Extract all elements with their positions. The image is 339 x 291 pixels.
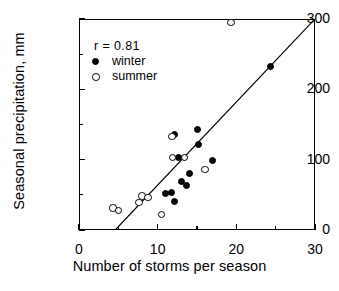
data-point-summer xyxy=(168,133,176,141)
open-circle-icon xyxy=(92,73,100,81)
correlation-annotation: r = 0.81 xyxy=(94,39,140,53)
legend-label-winter: winter xyxy=(112,54,145,68)
filled-circle-icon xyxy=(92,58,99,65)
data-point-winter xyxy=(195,141,202,148)
data-point-winter xyxy=(186,170,193,177)
x-axis-label: Number of storms per season xyxy=(0,258,339,274)
data-point-winter xyxy=(171,198,178,205)
y-axis-label: Seasonal precipitation, mm xyxy=(11,6,27,236)
data-point-summer xyxy=(201,166,209,174)
legend-label-summer: summer xyxy=(112,69,157,83)
x-tick-label: 10 xyxy=(138,241,178,257)
scatter-plot-figure: Seasonal precipitation, mm Number of sto… xyxy=(0,0,339,291)
x-tick-label: 0 xyxy=(59,241,99,257)
x-tick-label: 30 xyxy=(295,241,335,257)
data-point-summer xyxy=(115,207,123,215)
data-point-winter xyxy=(168,189,175,196)
data-point-summer xyxy=(227,19,235,27)
x-tick-label: 20 xyxy=(216,241,256,257)
